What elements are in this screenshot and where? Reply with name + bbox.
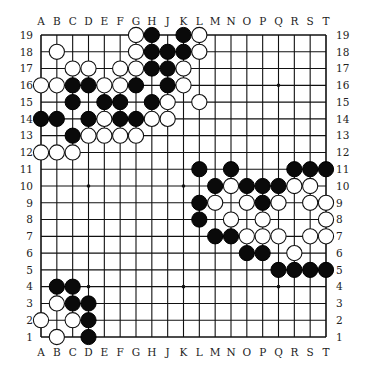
row-label: 6 [26, 247, 33, 259]
black-stone [65, 95, 80, 110]
white-stone [144, 111, 159, 126]
column-label: L [196, 346, 203, 358]
white-stone [318, 229, 333, 244]
black-stone [303, 262, 318, 277]
row-label: 10 [20, 180, 33, 192]
row-label: 4 [336, 280, 343, 292]
column-label: Q [274, 15, 283, 27]
black-stone [239, 246, 254, 261]
column-label: K [180, 15, 188, 27]
white-stone [33, 313, 48, 328]
black-stone [160, 78, 175, 93]
column-label: G [132, 346, 140, 358]
black-stone [303, 162, 318, 177]
column-label: K [180, 346, 188, 358]
row-label: 14 [336, 113, 350, 125]
column-label: Q [274, 346, 283, 358]
white-stone [33, 145, 48, 160]
column-label: R [290, 346, 299, 358]
white-stone [49, 78, 64, 93]
black-stone [144, 27, 159, 42]
column-label: L [196, 15, 203, 27]
black-stone [81, 329, 96, 344]
row-label: 11 [336, 163, 349, 175]
row-label: 9 [336, 197, 343, 209]
star-point [87, 285, 91, 289]
column-label: E [100, 346, 108, 358]
black-stone [65, 279, 80, 294]
black-stone [113, 111, 128, 126]
white-stone [239, 195, 254, 210]
column-label: J [165, 15, 170, 27]
black-stone [192, 162, 207, 177]
row-label: 6 [336, 247, 343, 259]
black-stone [81, 111, 96, 126]
white-stone [192, 95, 207, 110]
black-stone [192, 195, 207, 210]
column-label: H [147, 15, 156, 27]
white-stone [65, 145, 80, 160]
column-label: P [259, 15, 266, 27]
white-stone [303, 195, 318, 210]
white-stone [271, 195, 286, 210]
black-stone [287, 262, 302, 277]
black-stone [255, 178, 270, 193]
white-stone [97, 111, 112, 126]
white-stone [128, 61, 143, 76]
white-stone [33, 78, 48, 93]
white-stone [192, 27, 207, 42]
star-point [277, 285, 281, 289]
column-label: O [243, 15, 252, 27]
row-label: 14 [20, 113, 34, 125]
column-label: C [69, 15, 77, 27]
column-label: E [100, 15, 108, 27]
column-label: B [53, 15, 61, 27]
row-label: 15 [336, 96, 349, 108]
column-label: B [53, 346, 61, 358]
row-label: 17 [336, 62, 349, 74]
row-label: 3 [26, 297, 33, 309]
column-label: M [210, 15, 221, 27]
black-stone [65, 296, 80, 311]
white-stone [303, 178, 318, 193]
black-stone [144, 95, 159, 110]
white-stone [81, 61, 96, 76]
column-label: A [36, 15, 45, 27]
column-label: A [36, 346, 45, 358]
white-stone [303, 229, 318, 244]
black-stone [144, 44, 159, 59]
row-label: 5 [336, 264, 343, 276]
row-label: 1 [336, 331, 343, 343]
white-stone [271, 229, 286, 244]
white-stone [49, 44, 64, 59]
white-stone [318, 195, 333, 210]
column-label: S [307, 15, 314, 27]
white-stone [239, 229, 254, 244]
black-stone [271, 178, 286, 193]
black-stone [65, 128, 80, 143]
white-stone [176, 78, 191, 93]
black-stone [208, 178, 223, 193]
white-stone [97, 128, 112, 143]
white-stone [113, 128, 128, 143]
white-stone [208, 195, 223, 210]
black-stone [223, 162, 238, 177]
black-stone [160, 61, 175, 76]
row-label: 8 [336, 213, 343, 225]
row-label: 8 [26, 213, 33, 225]
black-stone [49, 111, 64, 126]
go-board: ABCDEFGHJKLMNOPQRST ABCDEFGHJKLMNOPQRST … [0, 0, 367, 376]
black-stone [65, 78, 80, 93]
white-stone [160, 95, 175, 110]
column-label: G [132, 15, 140, 27]
row-label: 16 [336, 79, 350, 91]
white-stone [113, 78, 128, 93]
black-stone [128, 111, 143, 126]
row-label: 3 [336, 297, 343, 309]
black-stone [239, 178, 254, 193]
row-label: 13 [20, 129, 33, 141]
star-point [87, 184, 91, 188]
white-stone [65, 61, 80, 76]
black-stone [176, 44, 191, 59]
white-stone [255, 229, 270, 244]
